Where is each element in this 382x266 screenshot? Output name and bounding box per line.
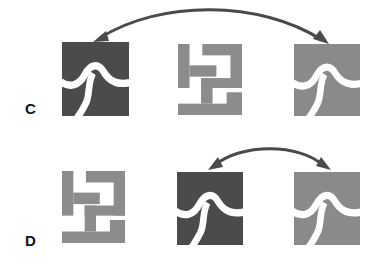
puzzle-shape-icon [294,44,360,116]
arrowhead-left-icon [93,31,109,42]
arrowhead-right-icon [313,30,329,44]
maze-shape-icon [178,44,242,115]
puzzle-shape-icon [177,172,243,245]
row-label-d: D [25,233,36,248]
puzzle-shape-icon [62,42,129,116]
row-d-tile-3-light-puzzle [294,172,360,245]
puzzle-shape-icon [294,172,360,245]
arrowhead-right-icon [316,157,331,170]
row-label-c: C [25,101,36,116]
arrowhead-left-icon [208,157,223,170]
row-c-tile-2-maze [178,44,242,115]
row-c-tile-3-light-puzzle [294,44,360,116]
row-d-tile-1-maze [62,171,125,243]
row-d-tile-2-dark-puzzle [177,172,243,245]
maze-shape-icon [62,171,125,243]
row-c-tile-1-dark-puzzle [62,42,129,116]
